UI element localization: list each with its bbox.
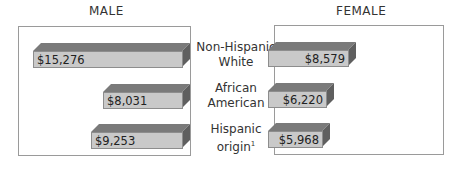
- male-panel-title: MALE: [89, 4, 124, 18]
- category-text: origin: [217, 140, 251, 154]
- bar-value: $5,968: [268, 131, 323, 148]
- female-panel-title: FEMALE: [336, 4, 386, 18]
- bar-value: $6,220: [268, 91, 327, 108]
- bar-value: $9,253: [91, 132, 183, 149]
- footnote-marker: 1: [251, 140, 255, 148]
- bar-value: $15,276: [33, 51, 183, 68]
- bar-value: $8,579: [268, 50, 349, 67]
- bar-value: $8,031: [103, 92, 183, 109]
